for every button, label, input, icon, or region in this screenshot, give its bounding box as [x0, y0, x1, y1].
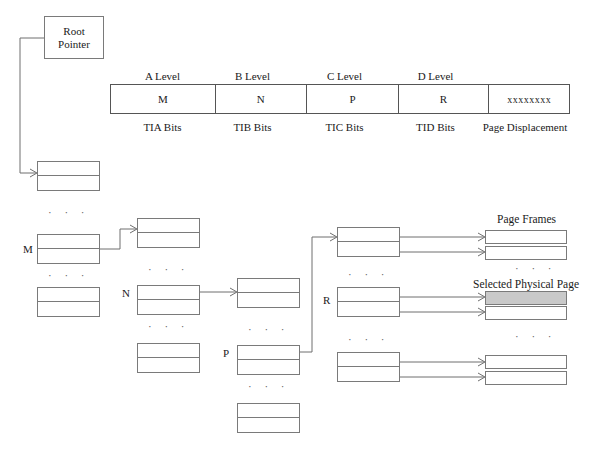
address-caption-d-level: D Level — [383, 70, 488, 82]
page-frames-ellipsis-upper: · · · — [515, 262, 557, 274]
address-cell-a-level: M — [111, 85, 216, 113]
d-level-last-row-top — [338, 353, 399, 367]
selected-physical-page-box — [485, 291, 567, 305]
b-level-ellipsis-upper: · · · — [148, 263, 190, 275]
c-level-selected-row-bottom — [238, 360, 299, 374]
page-frame-box-5 — [485, 371, 567, 385]
d-level-entry-box-last — [337, 352, 400, 382]
c-level-selected-entry-box — [237, 345, 300, 375]
d-level-selected-entry-box — [337, 287, 400, 317]
c-level-selected-row-top — [238, 346, 299, 360]
b-level-entry-box — [137, 218, 200, 248]
d-level-last-row-bottom — [338, 367, 399, 381]
b-level-selected-row-top — [138, 286, 199, 300]
address-cell-b-level: N — [216, 85, 308, 113]
b-level-selected-label: N — [122, 287, 130, 299]
a-level-ellipsis-lower: · · · — [48, 269, 90, 281]
c-level-entry-row-bottom — [238, 293, 299, 307]
virtual-address-format-bar: M N P R xxxxxxxx — [110, 84, 570, 114]
b-level-entry-row-top — [138, 219, 199, 233]
d-level-selected-row-bottom — [338, 302, 399, 316]
page-frame-box-3 — [485, 306, 567, 320]
address-cell-c-level: P — [307, 85, 399, 113]
a-level-entry-box-last — [37, 287, 100, 317]
d-level-selected-label: R — [323, 294, 330, 306]
a-level-last-row-top — [38, 288, 99, 302]
page-frames-title: Page Frames — [497, 213, 556, 225]
d-level-selected-row-top — [338, 288, 399, 302]
root-pointer-box: Root Pointer — [44, 16, 104, 59]
a-level-last-row-bottom — [38, 302, 99, 316]
root-pointer-line1: Root — [63, 25, 84, 37]
d-level-ellipsis-lower: · · · — [348, 333, 390, 345]
a-level-selected-label: M — [23, 243, 33, 255]
page-table-translation-diagram: Root Pointer A Level B Level C Level D L… — [0, 0, 608, 468]
a-level-selected-row-bottom — [38, 249, 99, 263]
page-frame-box-4 — [485, 355, 567, 369]
address-cell-b-value: N — [257, 93, 265, 105]
c-level-selected-label: P — [223, 347, 229, 359]
d-level-entry-row-top — [338, 228, 399, 242]
page-frame-box-2 — [485, 246, 567, 260]
a-level-entry-row-bottom — [38, 176, 99, 190]
c-level-last-row-bottom — [238, 418, 299, 432]
b-level-last-row-top — [138, 344, 199, 358]
c-level-entry-box — [237, 278, 300, 308]
a-level-selected-entry-box — [37, 234, 100, 264]
c-level-entry-row-top — [238, 279, 299, 293]
page-frame-box-1 — [485, 230, 567, 244]
address-cell-c-value: P — [349, 93, 355, 105]
d-level-entry-row-bottom — [338, 242, 399, 256]
a-level-selected-row-top — [38, 235, 99, 249]
address-caption-b-level: B Level — [200, 70, 305, 82]
address-cell-page-displacement: xxxxxxxx — [489, 85, 569, 113]
b-level-selected-entry-box — [137, 285, 200, 315]
c-level-last-row-top — [238, 404, 299, 418]
root-pointer-line2: Pointer — [58, 38, 90, 50]
c-level-entry-box-last — [237, 403, 300, 433]
b-level-ellipsis-lower: · · · — [148, 320, 190, 332]
page-frames-ellipsis-lower: · · · — [515, 330, 557, 342]
b-level-last-row-bottom — [138, 358, 199, 372]
a-level-entry-box — [37, 161, 100, 191]
d-level-entry-box — [337, 227, 400, 257]
b-level-entry-box-last — [137, 343, 200, 373]
address-cell-a-value: M — [158, 93, 168, 105]
c-level-ellipsis-upper: · · · — [248, 323, 290, 335]
address-bits-caption-tib: TIB Bits — [200, 121, 305, 133]
address-cell-d-level: R — [399, 85, 490, 113]
c-level-ellipsis-lower: · · · — [248, 380, 290, 392]
d-level-ellipsis-upper: · · · — [348, 268, 390, 280]
address-cell-d-value: R — [440, 93, 447, 105]
b-level-selected-row-bottom — [138, 300, 199, 314]
address-bits-caption-tic: TIC Bits — [292, 121, 397, 133]
address-caption-c-level: C Level — [292, 70, 397, 82]
selected-physical-page-title: Selected Physical Page — [473, 278, 579, 290]
a-level-ellipsis-upper: · · · — [48, 206, 90, 218]
a-level-entry-row-top — [38, 162, 99, 176]
address-cell-displacement-value: xxxxxxxx — [507, 94, 551, 105]
b-level-entry-row-bottom — [138, 233, 199, 247]
address-bits-caption-page-displacement: Page Displacement — [470, 121, 580, 133]
